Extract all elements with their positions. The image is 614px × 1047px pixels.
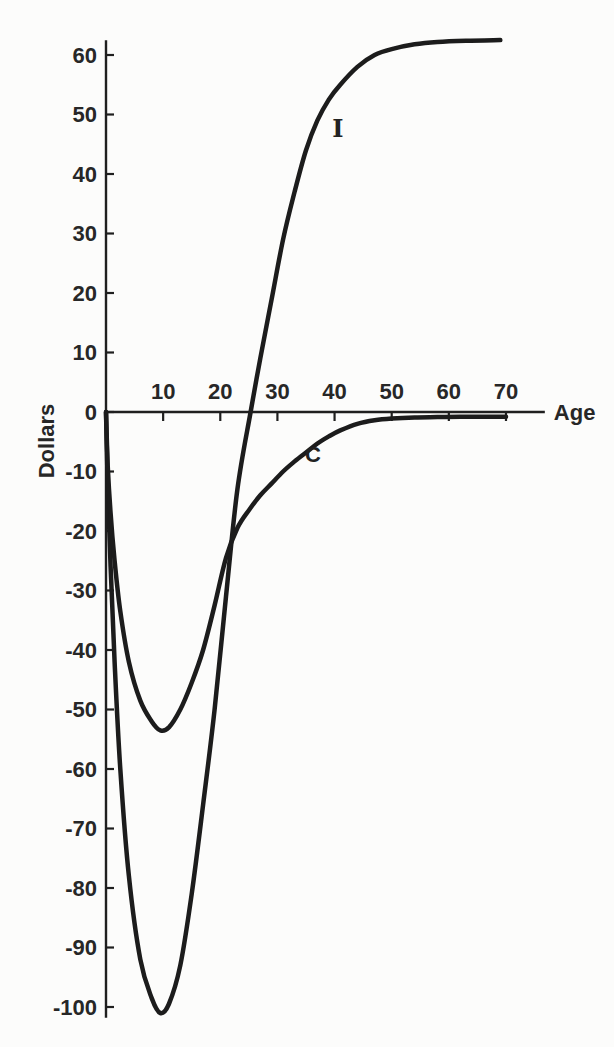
chart-figure: 6050403020100-10-20-30-40-50-60-70-80-90… bbox=[0, 0, 614, 1047]
y-axis-tick-label: 20 bbox=[73, 281, 97, 306]
y-axis-tick-label: 40 bbox=[73, 162, 97, 187]
y-axis-title: Dollars bbox=[34, 404, 59, 479]
y-axis-tick-label: 10 bbox=[73, 340, 97, 365]
x-axis-tick-label: 20 bbox=[208, 379, 232, 404]
x-axis-title: Age bbox=[554, 400, 596, 425]
y-axis-tick-label: 30 bbox=[73, 221, 97, 246]
curve-label-I: I bbox=[332, 114, 343, 143]
y-axis-tick-label: -70 bbox=[65, 816, 97, 841]
y-axis-tick-label: -90 bbox=[65, 935, 97, 960]
x-axis-tick-label: 60 bbox=[437, 379, 461, 404]
y-axis-tick-label: -30 bbox=[65, 578, 97, 603]
y-axis-tick-label: -80 bbox=[65, 876, 97, 901]
x-axis-tick-label: 40 bbox=[322, 379, 346, 404]
y-axis-tick-label: 50 bbox=[73, 102, 97, 127]
x-axis-tick-label: 10 bbox=[151, 379, 175, 404]
y-axis-tick-label: -60 bbox=[65, 757, 97, 782]
dollars-vs-age-line-chart: 6050403020100-10-20-30-40-50-60-70-80-90… bbox=[0, 0, 614, 1047]
y-axis-tick-label: 60 bbox=[73, 43, 97, 68]
x-axis-tick-label: 50 bbox=[379, 379, 403, 404]
y-axis-tick-label: -10 bbox=[65, 459, 97, 484]
x-axis-tick-label: 30 bbox=[265, 379, 289, 404]
y-axis-tick-label: 0 bbox=[85, 400, 97, 425]
y-axis-tick-label: -40 bbox=[65, 638, 97, 663]
curve-label-C: C bbox=[305, 442, 321, 467]
curve-I bbox=[106, 40, 500, 1013]
y-axis-tick-label: -100 bbox=[53, 995, 97, 1020]
y-axis-tick-label: -20 bbox=[65, 519, 97, 544]
x-axis-tick-label: 70 bbox=[494, 379, 518, 404]
y-axis-tick-label: -50 bbox=[65, 697, 97, 722]
